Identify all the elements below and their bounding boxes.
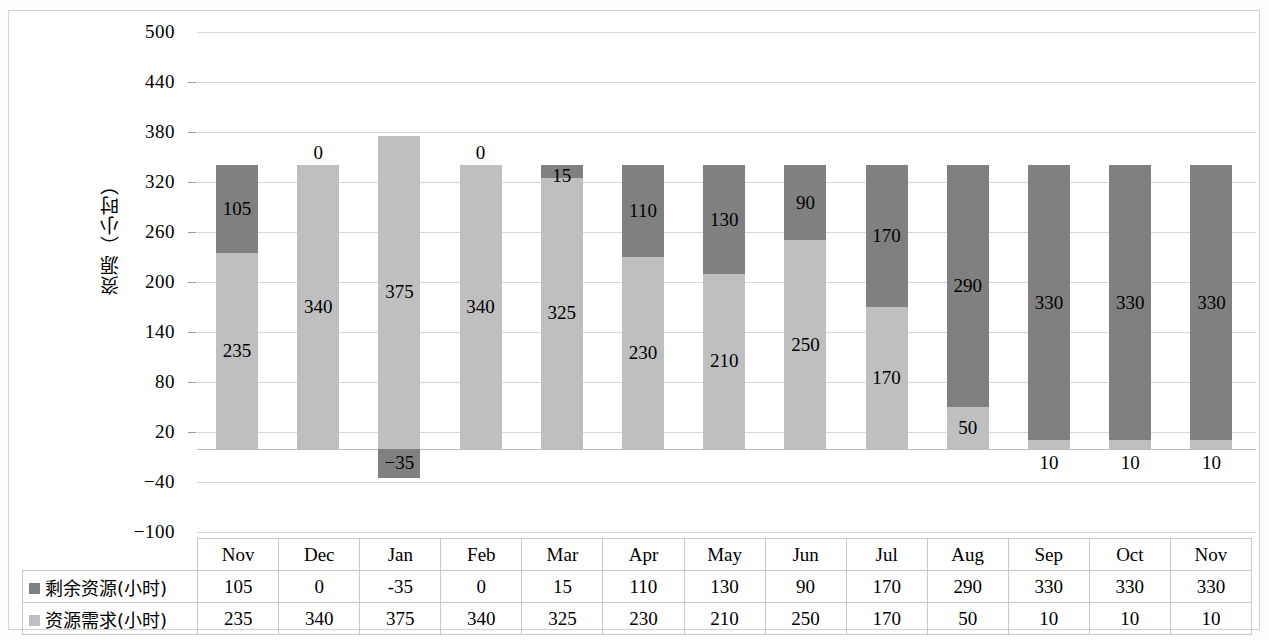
- bar-group[interactable]: 210130: [703, 32, 745, 532]
- y-axis-tick-mark: [188, 132, 196, 133]
- bar-label-remaining: 110: [622, 201, 664, 220]
- bar-group[interactable]: 10330: [1109, 32, 1151, 532]
- gridline: [197, 532, 1256, 533]
- table-cell: 375: [360, 603, 441, 635]
- bar-group[interactable]: 32515: [541, 32, 583, 532]
- table-cell: 50: [927, 603, 1008, 635]
- bar-group[interactable]: 10330: [1190, 32, 1232, 532]
- bar-label-demand: 250: [784, 335, 826, 354]
- bar-label-remaining: 330: [1028, 293, 1070, 312]
- chart-container: 资源（小时） 5004403803202602001408020−40−1002…: [0, 0, 1269, 640]
- y-axis-tick-mark: [188, 82, 196, 83]
- bar-group[interactable]: 230110: [622, 32, 664, 532]
- table-row-header: 剩余资源(小时): [23, 571, 198, 603]
- table-cell: 330: [1170, 571, 1251, 603]
- bar-segment-demand[interactable]: [1109, 440, 1151, 448]
- bar-group[interactable]: 235105: [216, 32, 258, 532]
- bar-label-remaining: 0: [297, 143, 339, 162]
- table-cell: 340: [279, 603, 360, 635]
- table-column-header: Jun: [765, 539, 846, 571]
- bar-label-demand: 340: [460, 297, 502, 316]
- bar-label-demand: 230: [622, 343, 664, 362]
- table-cell: 130: [684, 571, 765, 603]
- table-column-header: Dec: [279, 539, 360, 571]
- table-cell: 10: [1089, 603, 1170, 635]
- bar-label-remaining: 130: [703, 210, 745, 229]
- bar-group[interactable]: 10330: [1028, 32, 1070, 532]
- y-axis-tick-mark: [188, 282, 196, 283]
- table-column-header: Nov: [198, 539, 279, 571]
- table-row: 资源需求(小时)23534037534032523021025017050101…: [23, 603, 1252, 635]
- bar-label-demand: 10: [1190, 453, 1232, 472]
- table-column-header: May: [684, 539, 765, 571]
- bar-group[interactable]: 3400: [460, 32, 502, 532]
- bar-segment-demand[interactable]: [1190, 440, 1232, 448]
- y-axis-tick-label: 140: [105, 321, 175, 343]
- bar-label-remaining: 330: [1190, 293, 1232, 312]
- table-cell: 330: [1008, 571, 1089, 603]
- y-axis-tick-label: 20: [105, 421, 175, 443]
- table-cell: 110: [603, 571, 684, 603]
- bar-group[interactable]: 375−35: [378, 32, 420, 532]
- bar-label-demand: 340: [297, 297, 339, 316]
- table-cell: 10: [1170, 603, 1251, 635]
- bar-segment-demand[interactable]: [1028, 440, 1070, 448]
- bar-group[interactable]: 25090: [784, 32, 826, 532]
- table-cell: 105: [198, 571, 279, 603]
- plot-area: 5004403803202602001408020−40−10023510534…: [197, 32, 1256, 532]
- bar-group[interactable]: 170170: [866, 32, 908, 532]
- bar-label-remaining: 330: [1109, 293, 1151, 312]
- table-cell: 90: [765, 571, 846, 603]
- table-cell: 340: [441, 603, 522, 635]
- table-column-header: Jan: [360, 539, 441, 571]
- bar-label-remaining: 15: [541, 166, 583, 185]
- y-axis-tick-label: 440: [105, 71, 175, 93]
- table-column-header: Feb: [441, 539, 522, 571]
- bar-label-remaining: 105: [216, 199, 258, 218]
- legend-swatch-icon: [29, 583, 40, 594]
- table-column-header: Mar: [522, 539, 603, 571]
- table-cell: 170: [846, 571, 927, 603]
- legend-label: 剩余资源(小时): [45, 578, 167, 599]
- y-axis-tick-label: 260: [105, 221, 175, 243]
- bar-group[interactable]: 3400: [297, 32, 339, 532]
- table-column-header: Oct: [1089, 539, 1170, 571]
- table-column-header: Apr: [603, 539, 684, 571]
- bar-label-demand: 170: [866, 368, 908, 387]
- y-axis-tick-label: 500: [105, 21, 175, 43]
- legend-swatch-icon: [29, 615, 40, 626]
- table-cell: 15: [522, 571, 603, 603]
- bar-label-remaining: 90: [784, 193, 826, 212]
- table-column-header: Jul: [846, 539, 927, 571]
- table-cell: 250: [765, 603, 846, 635]
- bar-label-demand: 325: [541, 303, 583, 322]
- table-cell: 290: [927, 571, 1008, 603]
- table-cell: -35: [360, 571, 441, 603]
- table-cell: 0: [441, 571, 522, 603]
- bar-label-remaining: 0: [460, 143, 502, 162]
- bar-label-demand: 10: [1109, 453, 1151, 472]
- legend-label: 资源需求(小时): [45, 610, 167, 631]
- table-corner-cell: [23, 539, 198, 571]
- table-cell: 210: [684, 603, 765, 635]
- table-cell: 325: [522, 603, 603, 635]
- y-axis-tick-label: −40: [105, 471, 175, 493]
- table-cell: 10: [1008, 603, 1089, 635]
- bar-label-remaining: 170: [866, 226, 908, 245]
- y-axis-tick-mark: [188, 232, 196, 233]
- table-cell: 170: [846, 603, 927, 635]
- y-axis-tick-mark: [188, 332, 196, 333]
- table-column-header: Aug: [927, 539, 1008, 571]
- bar-label-demand: 375: [378, 282, 420, 301]
- bar-label-demand: 235: [216, 341, 258, 360]
- bar-label-remaining: 290: [947, 276, 989, 295]
- y-axis-tick-mark: [188, 182, 196, 183]
- table-row: 剩余资源(小时)1050-350151101309017029033033033…: [23, 571, 1252, 603]
- y-axis-tick-label: 320: [105, 171, 175, 193]
- y-axis-tick-label: 380: [105, 121, 175, 143]
- bar-group[interactable]: 50290: [947, 32, 989, 532]
- bar-label-demand: 10: [1028, 453, 1070, 472]
- table-row-header: 资源需求(小时): [23, 603, 198, 635]
- table-header-row: NovDecJanFebMarAprMayJunJulAugSepOctNov: [23, 539, 1252, 571]
- y-axis-tick-mark: [188, 382, 196, 383]
